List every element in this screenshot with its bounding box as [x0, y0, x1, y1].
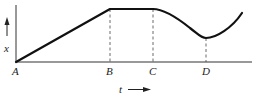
y-axis-label: x	[3, 42, 9, 54]
position-curve	[16, 9, 242, 62]
up-arrow-icon	[5, 17, 10, 36]
point-label-b: B	[106, 65, 113, 77]
x-axis-label: t	[119, 83, 123, 95]
point-label-c: C	[149, 65, 157, 77]
position-time-diagram: x A B C D t	[0, 0, 260, 106]
point-label-a: A	[11, 65, 19, 77]
right-arrow-icon	[128, 87, 151, 92]
point-label-d: D	[201, 65, 210, 77]
